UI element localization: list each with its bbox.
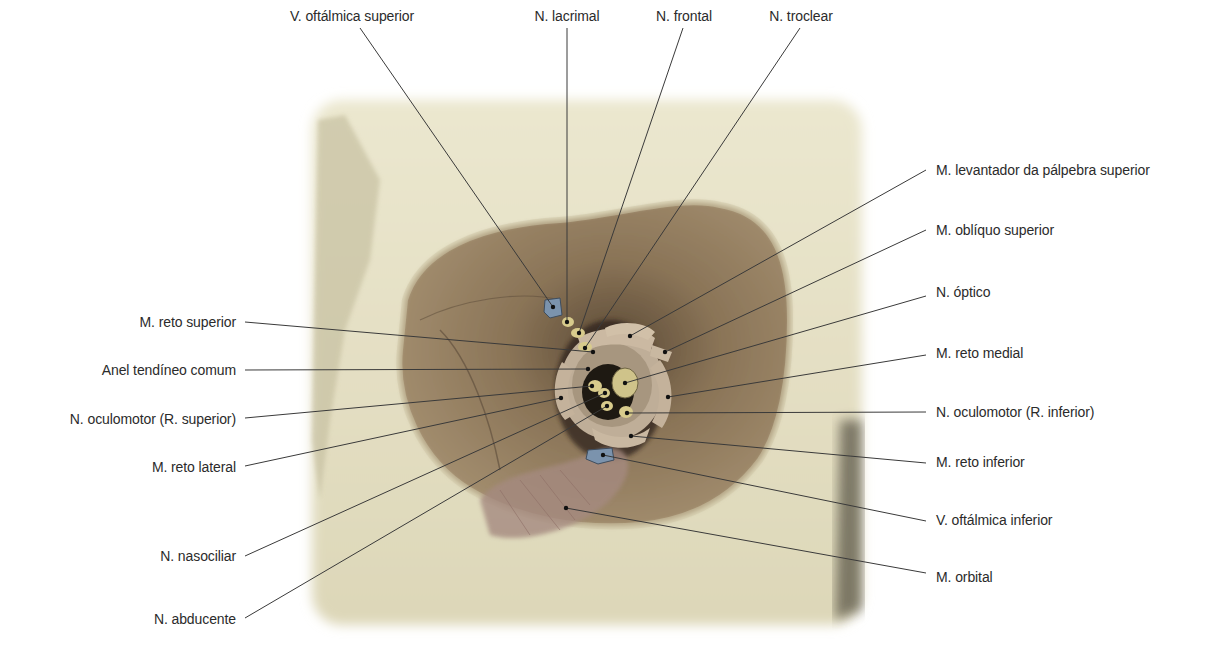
label-levator-palpebrae-superioris: M. levantador da pálpebra superior bbox=[936, 162, 1150, 178]
label-oculomotor-inferior-branch: N. oculomotor (R. inferior) bbox=[936, 404, 1094, 420]
label-oculomotor-superior-branch: N. oculomotor (R. superior) bbox=[70, 411, 236, 427]
label-abducens-nerve: N. abducente bbox=[154, 611, 236, 627]
label-common-tendinous-ring: Anel tendíneo comum bbox=[102, 362, 236, 378]
label-frontal-nerve: N. frontal bbox=[656, 8, 712, 24]
label-superior-ophthalmic-vein: V. oftálmica superior bbox=[290, 8, 414, 24]
label-optic-nerve: N. óptico bbox=[936, 284, 990, 300]
label-nasociliary-nerve: N. nasociliar bbox=[160, 548, 236, 564]
label-trochlear-nerve: N. troclear bbox=[769, 8, 832, 24]
label-superior-oblique-muscle: M. oblíquo superior bbox=[936, 222, 1054, 238]
label-orbital-muscle: M. orbital bbox=[936, 569, 993, 585]
label-medial-rectus-muscle: M. reto medial bbox=[936, 345, 1023, 361]
label-lateral-rectus-muscle: M. reto lateral bbox=[152, 459, 236, 475]
label-lacrimal-nerve: N. lacrimal bbox=[534, 8, 599, 24]
label-inferior-ophthalmic-vein: V. oftálmica inferior bbox=[936, 512, 1052, 528]
orbital-apex-diagram: V. oftálmica superior N. lacrimal N. fro… bbox=[0, 0, 1224, 661]
label-superior-rectus-muscle: M. reto superior bbox=[140, 314, 236, 330]
label-inferior-rectus-muscle: M. reto inferior bbox=[936, 454, 1025, 470]
